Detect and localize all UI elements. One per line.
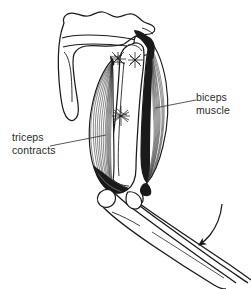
label-triceps-line1: triceps xyxy=(12,131,56,144)
label-triceps-line2: contracts xyxy=(12,144,56,157)
label-biceps-line2: muscle xyxy=(196,104,230,117)
forearm-bones xyxy=(97,189,251,289)
label-triceps-contracts: triceps contracts xyxy=(12,131,56,156)
label-biceps-line1: biceps xyxy=(196,91,230,104)
label-biceps-muscle: biceps muscle xyxy=(196,91,230,116)
ulna-bone xyxy=(102,195,226,289)
anatomy-figure: biceps muscle triceps contracts xyxy=(0,0,251,289)
extension-motion-arrow xyxy=(199,204,222,245)
